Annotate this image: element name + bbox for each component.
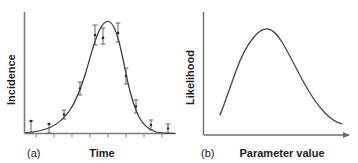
panel-b-label: (b) xyxy=(201,147,214,159)
data-point-error-bar xyxy=(101,28,106,44)
panel-a-plot: Incidence Time (a) xyxy=(0,0,179,163)
panel-a-label: (a) xyxy=(27,147,40,159)
data-point-error-bar xyxy=(62,110,66,119)
panel-b-plot: Likelihood Parameter value (b) xyxy=(179,0,358,163)
panel-b-likelihood-curve xyxy=(220,29,342,124)
panel-b-likelihood-profile: Likelihood Parameter value (b) xyxy=(179,0,358,163)
data-point-error-bar xyxy=(166,124,170,133)
panel-a-data-points xyxy=(29,23,171,133)
panel-b-x-axis-label: Parameter value xyxy=(240,147,325,159)
panel-a-x-axis-label: Time xyxy=(89,147,114,159)
panel-a-y-axis-label: Incidence xyxy=(5,54,17,105)
panel-a-incidence-over-time: Incidence Time (a) xyxy=(0,0,179,163)
panel-b-y-axis-label: Likelihood xyxy=(184,50,196,105)
panel-a-epidemic-curve xyxy=(26,21,174,133)
data-point-error-bar xyxy=(29,120,34,133)
figure-container: Incidence Time (a) Likelihood Parame xyxy=(0,0,358,163)
